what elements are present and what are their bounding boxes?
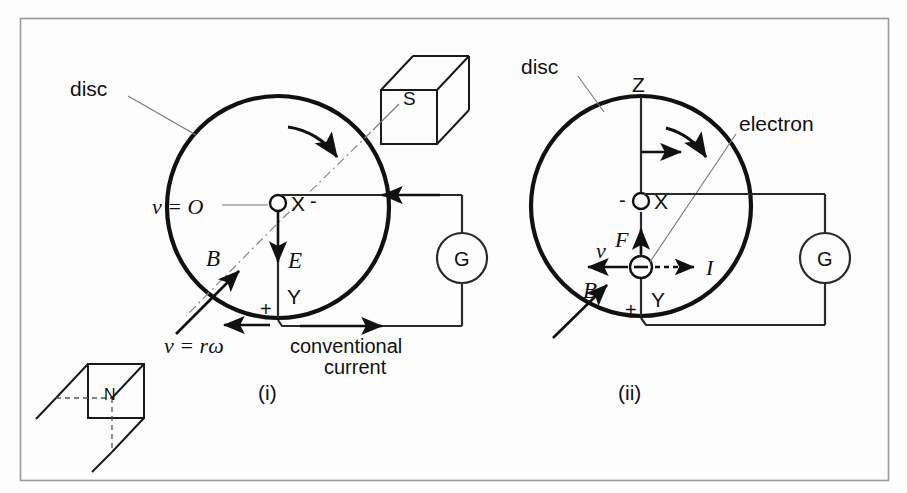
- axle-sign-left: -: [310, 190, 317, 212]
- rim-label-right: Y: [651, 288, 665, 311]
- velocity-label-right: v: [596, 238, 606, 263]
- axle-contact-left: [270, 195, 286, 211]
- rim-sign-right: +: [625, 299, 637, 321]
- axle-sign-right: -: [619, 189, 626, 211]
- b-field-label-right: B: [583, 278, 597, 303]
- galvanometer-label-left: G: [454, 248, 470, 270]
- rim-velocity-label: v = rω: [164, 333, 224, 358]
- top-point-label-z: Z: [632, 73, 645, 96]
- galvanometer-label-right: G: [817, 248, 833, 270]
- conventional-current-label-2: current: [324, 356, 387, 378]
- disc-label-left: disc: [70, 77, 107, 100]
- magnet-s-label: S: [403, 88, 416, 109]
- disc-label-right: disc: [521, 55, 558, 78]
- figure-container: disc S N X: [0, 0, 907, 493]
- rim-sign-left: +: [260, 298, 272, 320]
- physics-diagram-svg: disc S N X: [0, 0, 907, 493]
- page-background: [0, 0, 907, 493]
- force-label: F: [614, 227, 629, 252]
- b-field-label-left: B: [206, 246, 220, 271]
- centre-velocity-label: v = O: [152, 194, 204, 219]
- panel-caption-ii: (ii): [618, 381, 641, 404]
- panel-caption-i: (i): [258, 381, 277, 404]
- e-field-label: E: [287, 248, 302, 273]
- electron-label: electron: [739, 112, 814, 135]
- rim-label-left: Y: [287, 285, 301, 308]
- axle-contact-right: [633, 193, 649, 209]
- conventional-current-label-1: conventional: [290, 335, 402, 357]
- magnet-n-label: N: [104, 386, 116, 403]
